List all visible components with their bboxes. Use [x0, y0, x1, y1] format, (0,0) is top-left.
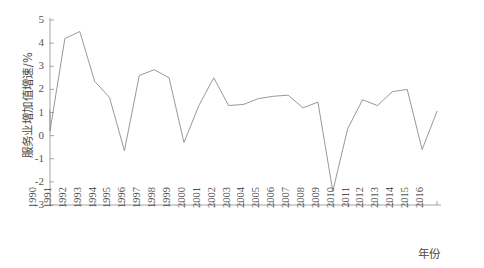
x-tick-label-text: 2008 [295, 187, 307, 233]
y-tick-label-text: 5 [28, 14, 44, 25]
line-chart: 服务业增加值增速/% 543210-1-2-3 1990199119921993… [0, 0, 484, 268]
x-tick-label-text: 1990 [27, 187, 39, 233]
y-tick-label: 0 [28, 130, 44, 142]
x-tick-label-text: 2010 [325, 187, 337, 233]
y-tick-label: 1 [28, 107, 44, 119]
data-series-group [50, 32, 437, 192]
y-tick-label: 3 [28, 60, 44, 72]
data-series-line [50, 32, 437, 192]
y-tick-label-text: 0 [28, 130, 44, 141]
x-tick-label-text: 1999 [161, 187, 173, 233]
x-tick-label-text: 2016 [414, 187, 426, 233]
y-tick-label-text: 2 [28, 83, 44, 94]
x-tick-label-text: 2006 [265, 187, 277, 233]
y-tick-label-text: -1 [28, 153, 44, 164]
x-tick-label-text: 2002 [206, 187, 218, 233]
y-tick-label: 4 [28, 37, 44, 49]
x-tick-label-text: 1996 [116, 187, 128, 233]
y-tick-label-text: -2 [28, 176, 44, 187]
x-tick-label-text: 2000 [176, 187, 188, 233]
x-tick-label-text: 1993 [72, 187, 84, 233]
x-tick-label-text: 2001 [191, 187, 203, 233]
x-tick-label-text: 2003 [221, 187, 233, 233]
x-tick-label-text: 1991 [42, 187, 54, 233]
y-tick-label-text: 1 [28, 107, 44, 118]
x-tick-label-text: 1998 [146, 187, 158, 233]
x-tick-label-text: 2015 [399, 187, 411, 233]
x-tick-label-text: 2009 [310, 187, 322, 233]
x-tick-label-text: 1997 [131, 187, 143, 233]
x-axis-title: 年份 [418, 245, 440, 261]
x-tick-label-text: 2012 [354, 187, 366, 233]
x-tick-label-text: 2007 [280, 187, 292, 233]
y-tick-label: -1 [28, 153, 44, 165]
x-tick-label-text: 1995 [101, 187, 113, 233]
y-tick-label-text: 3 [28, 60, 44, 71]
y-tick-label: 5 [28, 14, 44, 26]
y-tick-label: 2 [28, 83, 44, 95]
x-tick-label-text: 2014 [384, 187, 396, 233]
x-tick-label-text: 1992 [57, 187, 69, 233]
x-tick-label-text: 2005 [250, 187, 262, 233]
x-tick-label-text: 2004 [235, 187, 247, 233]
y-tick-label-text: 4 [28, 37, 44, 48]
x-tick-label-text: 2013 [369, 187, 381, 233]
x-tick-label-text: 1994 [87, 187, 99, 233]
axis-lines [50, 18, 441, 205]
x-tick-label-text: 2011 [340, 187, 352, 233]
